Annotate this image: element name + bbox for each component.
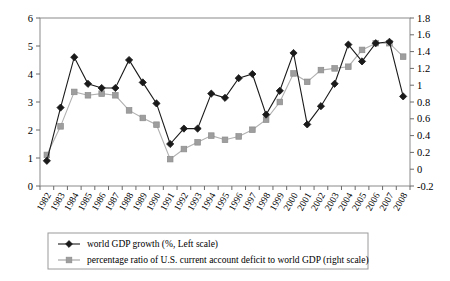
data-point-marker-square	[332, 66, 338, 72]
right-axis-tick-label: 0.2	[417, 147, 430, 158]
plot-frame-group	[40, 18, 410, 186]
chart-container: 0123456 -0.200.20.40.60.811.21.41.61.8 1…	[0, 0, 450, 281]
data-point-marker-square	[208, 133, 214, 139]
left-axis-tick-label: 0	[28, 181, 33, 192]
right-axis-tick-label: 0.8	[417, 97, 430, 108]
right-axis-tick-label: 1.2	[417, 63, 430, 74]
right-axis-tick-label: 1.8	[417, 13, 430, 24]
data-point-marker-square	[291, 71, 297, 77]
right-axis-tick-label: 0.6	[417, 113, 430, 124]
data-point-marker-square	[71, 89, 77, 95]
data-point-marker-square	[277, 99, 283, 105]
right-axis-tick-label: 0.4	[417, 130, 431, 141]
right-axis-tick-label: 1	[417, 80, 422, 91]
right-axis-tick-label: 1.4	[417, 46, 431, 57]
right-axis-tick-label: 1.6	[417, 29, 430, 40]
data-point-marker-square	[85, 92, 91, 98]
right-axis-tick-label: 0	[417, 164, 422, 175]
data-point-marker-square	[154, 122, 160, 128]
data-point-marker-square	[318, 67, 324, 73]
data-point-marker-square	[304, 79, 310, 85]
right-axis-ticks: -0.200.20.40.60.811.21.41.61.8	[410, 13, 434, 192]
left-axis-tick-label: 5	[28, 41, 33, 52]
data-point-marker-square	[346, 64, 352, 70]
data-point-marker-square	[250, 127, 256, 133]
data-point-marker-square	[400, 54, 406, 60]
left-axis-tick-label: 1	[28, 153, 33, 164]
data-point-marker-square	[167, 156, 173, 162]
data-point-marker-square	[140, 115, 146, 121]
data-point-marker-square	[359, 47, 365, 53]
data-point-marker-square	[58, 124, 64, 130]
legend-item-label: world GDP growth (%, Left scale)	[87, 239, 218, 250]
left-axis-ticks: 0123456	[28, 13, 40, 192]
data-point-marker-square	[195, 140, 201, 146]
left-axis-tick-label: 6	[28, 13, 33, 24]
data-point-marker-square	[222, 137, 228, 143]
left-axis-tick-label: 4	[28, 69, 34, 80]
chart-legend: world GDP growth (%, Left scale)percenta…	[48, 233, 369, 269]
plot-area	[40, 18, 410, 186]
line-chart: 0123456 -0.200.20.40.60.811.21.41.61.8 1…	[0, 0, 450, 281]
left-axis-tick-label: 2	[28, 125, 33, 136]
right-axis-tick-label: -0.2	[417, 181, 434, 192]
data-point-marker-square	[113, 92, 119, 98]
x-axis-ticks: 1982198319841985198619871988198919901991…	[35, 186, 410, 212]
legend-item-label: percentage ratio of U.S. current account…	[87, 255, 369, 266]
data-point-marker-square	[126, 108, 132, 114]
x-axis-year-label: 2008	[391, 191, 409, 213]
left-axis-tick-label: 3	[28, 97, 33, 108]
data-point-marker-square	[181, 146, 187, 152]
data-point-marker-square	[236, 134, 242, 140]
data-point-marker-square	[66, 257, 72, 263]
